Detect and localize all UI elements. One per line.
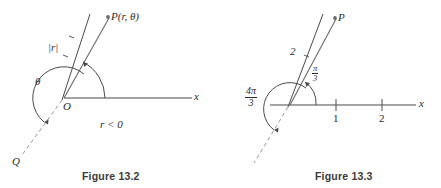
r-tick-lower (63, 55, 68, 57)
tick-label-2: 2 (379, 113, 385, 124)
x-axis-label: x (194, 91, 199, 102)
x-axis-label: x (419, 98, 424, 109)
tick-label-1: 1 (333, 113, 339, 124)
point-p-dot (106, 15, 110, 19)
figure-13-3: P 2 x 1 2 4π 3 π 3 Figure 13.3 (220, 0, 441, 188)
ray-to-p (290, 19, 336, 105)
ray-to-p (64, 18, 109, 98)
segment-r-label: |r| (48, 42, 58, 53)
angle-theta-arc-large (83, 62, 105, 98)
angle-4pi-over-3-arc (264, 83, 306, 130)
angle-4pi-over-3-arrowhead (274, 128, 279, 133)
figure-13-2-caption: Figure 13.2 (82, 170, 140, 182)
angle-4pi-over-3-label: 4π 3 (245, 86, 257, 108)
segment-length-line (288, 14, 323, 107)
r-tick-upper (69, 36, 74, 38)
segment-length-label: 2 (290, 46, 296, 57)
origin-label: O (63, 101, 71, 112)
angle-pi-over-3-denominator: 3 (312, 73, 318, 83)
point-p-label: P(r, θ) (111, 11, 139, 22)
angle-4pi-over-3-denominator: 3 (245, 97, 257, 109)
condition-label: r < 0 (100, 119, 123, 130)
angle-4pi-over-3-numerator: 4π (245, 86, 257, 97)
point-q-label: Q (12, 156, 20, 167)
segment-r-line (62, 14, 90, 100)
angle-pi-over-3-label: π 3 (312, 64, 318, 83)
point-p-label: P (338, 12, 345, 23)
angle-pi-over-3-numerator: π (312, 64, 318, 73)
ray-to-q-dashed (22, 100, 62, 155)
figure-13-2-drawing (0, 0, 220, 188)
figure-13-2: P(r, θ) |r| θ O x r < 0 Q Figure 13.2 (0, 0, 220, 188)
angle-theta-label: θ (35, 76, 40, 87)
point-p-dot (333, 16, 337, 20)
figure-13-3-caption: Figure 13.3 (315, 170, 373, 182)
opposite-ray-dashed (254, 107, 288, 163)
